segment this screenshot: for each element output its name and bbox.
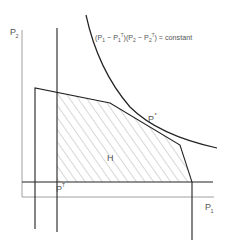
svg-text:*: * [155, 112, 158, 118]
svg-text:(P1 − P1T)(P2 − P2T) = constan: (P1 − P1T)(P2 − P2T) = constant [95, 33, 192, 43]
p2-axis-label: P 2 [10, 27, 19, 39]
equation-label: (P1 − P1T)(P2 − P2T) = constant [95, 33, 192, 43]
optimum-point-label: P * [148, 112, 158, 124]
p1-axis-label: P 1 [205, 202, 214, 214]
diagram-canvas: P 2 P 1 (P1 − P1T)(P2 − P2T) = constant … [0, 0, 230, 252]
svg-text:1: 1 [211, 208, 214, 214]
svg-text:T: T [62, 182, 65, 188]
region-h-hatch [57, 92, 192, 182]
svg-text:P: P [148, 114, 154, 124]
svg-text:2: 2 [16, 33, 19, 39]
region-h-label: H [107, 153, 114, 163]
threat-point-label: P T [56, 182, 65, 194]
